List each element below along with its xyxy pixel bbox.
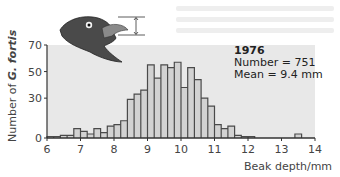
x-axis-label: Beak depth/mm: [244, 160, 332, 173]
legend-mean: Mean = 9.4 mm: [234, 69, 323, 81]
x-axis: 67891011121314: [44, 138, 323, 156]
y-tick-label: 30: [28, 92, 42, 105]
y-axis: 0305070: [28, 39, 47, 145]
x-tick-label: 8: [111, 143, 118, 156]
x-tick-label: 10: [174, 143, 188, 156]
y-tick-label: 0: [35, 132, 42, 145]
x-tick-label: 13: [275, 143, 289, 156]
x-tick-label: 14: [308, 143, 322, 156]
x-tick-label: 9: [144, 143, 151, 156]
y-tick-label: 70: [28, 39, 42, 52]
x-tick-label: 7: [77, 143, 84, 156]
x-tick-label: 12: [241, 143, 255, 156]
chart-legend: 1976 Number = 751 Mean = 9.4 mm: [234, 45, 323, 81]
x-tick-label: 6: [44, 143, 51, 156]
x-tick-label: 11: [208, 143, 222, 156]
y-tick-label: 50: [28, 66, 42, 79]
y-axis-label: Number of G. fortis: [6, 29, 19, 142]
histogram-chart: 0305070 67891011121314 Number of G. fort…: [0, 0, 340, 177]
